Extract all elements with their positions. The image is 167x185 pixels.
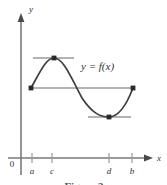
- tick-label-d: d: [107, 166, 112, 176]
- tick-label-a: a: [30, 166, 35, 176]
- figure-container: y x 0 a c d b y = f(x) Figure 3: [0, 0, 167, 185]
- curve-equation-label: y = f(x): [80, 60, 114, 73]
- point-c-local-max: [52, 56, 57, 61]
- figure-caption: Figure 3: [64, 180, 104, 185]
- point-a: [29, 86, 34, 91]
- origin-label: 0: [10, 159, 15, 169]
- function-graph-figure: y x 0 a c d b y = f(x) Figure 3: [0, 0, 167, 185]
- tick-label-c: c: [50, 166, 54, 176]
- x-axis-label: x: [156, 153, 161, 163]
- y-axis-label: y: [28, 4, 33, 14]
- x-axis-arrowhead: [144, 155, 153, 162]
- tick-label-b: b: [130, 166, 135, 176]
- point-d-local-min: [107, 115, 112, 120]
- y-axis-arrowhead: [18, 13, 25, 22]
- point-b: [131, 86, 136, 91]
